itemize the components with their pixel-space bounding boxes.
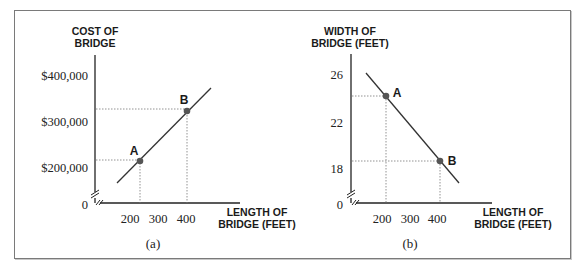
chart-b-point-b — [437, 158, 444, 165]
chart-a-caption: (a) — [146, 236, 160, 251]
chart-a-xlabel-line2: BRIDGE (FEET) — [218, 218, 296, 230]
chart-b-ylabel-line1: WIDTH OF — [324, 25, 376, 37]
chart-a-ytick-0: 0 — [82, 198, 88, 212]
chart-b-ytick-0: 0 — [337, 198, 343, 212]
chart-b-width-line — [366, 73, 459, 183]
chart-b-axis-break-icon — [347, 190, 359, 205]
chart-b-point-a-label: A — [393, 86, 402, 100]
chart-b-xtick-400: 400 — [428, 212, 447, 226]
chart-b-point-a — [383, 93, 390, 100]
chart-b-ytick-22: 22 — [331, 116, 344, 130]
chart-a-xtick-300: 300 — [149, 212, 168, 226]
chart-a-axis-break-icon — [91, 190, 103, 205]
chart-a-xtick-200: 200 — [121, 212, 140, 226]
chart-b-ytick-26: 26 — [331, 68, 344, 82]
chart-a-cost-line — [117, 88, 211, 183]
chart-a: COST OF BRIDGE $400,000 $300,000 $200,00… — [41, 25, 296, 251]
chart-b-ytick-18: 18 — [331, 162, 344, 176]
chart-a-xlabel-line1: LENGTH OF — [227, 206, 288, 218]
chart-a-ytick-400000: $400,000 — [41, 69, 88, 83]
chart-a-xtick-400: 400 — [177, 212, 196, 226]
chart-b-xtick-200: 200 — [373, 212, 392, 226]
figure-svg: COST OF BRIDGE $400,000 $300,000 $200,00… — [0, 0, 582, 269]
chart-a-guides — [96, 109, 187, 203]
chart-a-ytick-300000: $300,000 — [41, 115, 88, 129]
chart-b-xtick-300: 300 — [401, 212, 420, 226]
chart-b: WIDTH OF BRIDGE (FEET) 26 22 18 0 200 30… — [311, 25, 552, 251]
chart-b-guides — [352, 96, 440, 203]
chart-a-ytick-200000: $200,000 — [41, 161, 88, 175]
chart-b-xlabel-line1: LENGTH OF — [483, 206, 544, 218]
chart-a-point-b-label: B — [180, 93, 189, 107]
chart-a-point-b — [184, 108, 191, 115]
chart-b-point-b-label: B — [448, 154, 457, 168]
chart-b-caption: (b) — [402, 236, 417, 251]
chart-a-ylabel-line1: COST OF — [72, 25, 119, 37]
chart-b-ylabel-line2: BRIDGE (FEET) — [311, 37, 389, 49]
chart-a-point-a — [137, 158, 144, 165]
chart-b-xlabel-line2: BRIDGE (FEET) — [474, 218, 552, 230]
chart-a-point-a-label: A — [130, 144, 139, 158]
chart-a-ylabel-line2: BRIDGE — [75, 37, 116, 49]
